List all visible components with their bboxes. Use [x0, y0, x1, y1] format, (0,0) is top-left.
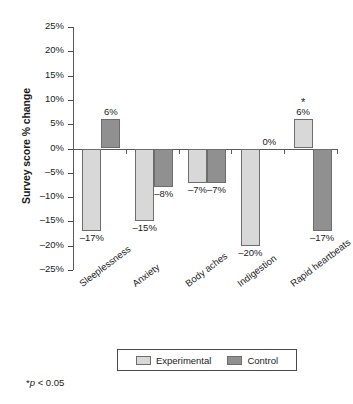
y-axis-tick-label: –20%: [40, 239, 64, 250]
y-axis-tick-label: –25%: [40, 263, 64, 274]
x-axis-label-indigestion: Indigestion: [235, 252, 278, 288]
y-axis-tick-label: 20%: [45, 44, 64, 55]
y-axis-tick-mark: [68, 270, 73, 271]
y-axis-tick-label: 15%: [45, 69, 64, 80]
y-axis-tick-label: –5%: [45, 166, 64, 177]
x-axis-label-rapid-heartbeats: Rapid heartbeats: [288, 236, 352, 288]
x-axis-tick-mark: [284, 149, 285, 154]
y-axis-tick-mark: [68, 221, 73, 222]
y-axis-tick-mark: [68, 246, 73, 247]
bar-control-anxiety: [154, 149, 173, 188]
footnote-rest: < 0.05: [35, 377, 64, 388]
x-axis-label-body-aches: Body aches: [183, 250, 229, 289]
x-axis-tick-mark: [231, 149, 232, 154]
bar-experimental-body-aches: [188, 149, 207, 183]
y-axis-tick-mark: [68, 173, 73, 174]
legend-label-control: Control: [247, 355, 278, 366]
bar-value-label: –7%: [196, 184, 237, 195]
significance-footnote: *p < 0.05: [26, 377, 64, 388]
bar-control-sleeplessness: [101, 119, 120, 148]
y-axis-tick-label: 0%: [50, 142, 64, 153]
bar-control-body-aches: [207, 149, 226, 183]
bar-value-label: 0%: [249, 136, 290, 147]
y-axis-tick-mark: [68, 124, 73, 125]
x-axis-tick-mark: [337, 149, 338, 154]
legend-item-experimental: Experimental: [136, 355, 211, 366]
y-axis-tick-mark: [68, 27, 73, 28]
bar-experimental-sleeplessness: [82, 149, 101, 232]
plot-area: 25%20%15%10%5%0%–5%–10%–15%–20%–25% –17%…: [73, 27, 337, 270]
bar-experimental-indigestion: [241, 149, 260, 246]
y-axis-tick-mark: [68, 51, 73, 52]
legend-label-experimental: Experimental: [156, 355, 211, 366]
x-axis-tick-mark: [73, 149, 74, 154]
y-axis-tick-label: –15%: [40, 214, 64, 225]
x-axis-label-anxiety: Anxiety: [130, 261, 162, 289]
significance-star: *: [294, 97, 313, 108]
bar-value-label: –15%: [124, 222, 165, 233]
y-axis-title: Survey score % change: [20, 51, 32, 241]
y-axis-tick-label: 10%: [45, 93, 64, 104]
x-axis-tick-mark: [179, 149, 180, 154]
y-axis-tick-mark: [68, 100, 73, 101]
bar-value-label: –17%: [71, 232, 112, 243]
y-axis-tick-mark: [68, 197, 73, 198]
bar-value-label: 6%: [90, 106, 131, 117]
y-axis-tick-label: 25%: [45, 20, 64, 31]
bar-experimental-rapid-heartbeats: [294, 119, 313, 148]
bar-experimental-anxiety: [135, 149, 154, 222]
x-axis-label-sleeplessness: Sleeplessness: [77, 243, 133, 289]
legend-swatch-experimental: [136, 356, 151, 365]
y-axis-tick-mark: [68, 76, 73, 77]
bar-value-label: –17%: [302, 232, 343, 243]
x-axis-tick-mark: [126, 149, 127, 154]
bar-control-rapid-heartbeats: [313, 149, 332, 232]
legend-item-control: Control: [227, 355, 278, 366]
y-axis-tick-label: 5%: [50, 117, 64, 128]
chart-legend: Experimental Control: [117, 349, 297, 371]
y-axis-tick-label: –10%: [40, 190, 64, 201]
legend-swatch-control: [227, 356, 242, 365]
